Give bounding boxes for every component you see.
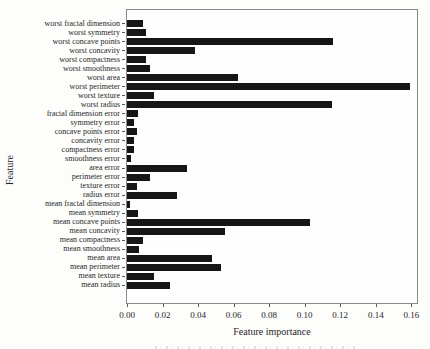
bar-worst-smoothness [127, 65, 150, 72]
y-tick-label: radius error [83, 191, 122, 199]
y-tick-mark [122, 59, 125, 60]
y-tick-mark [122, 276, 125, 277]
bars-container [127, 10, 417, 303]
y-tick-mark [122, 158, 125, 159]
y-tick-mark [122, 168, 125, 169]
y-tick-label: texture error [80, 182, 122, 190]
bar-area-error [127, 165, 187, 172]
y-tick-label: worst symmetry [68, 29, 122, 37]
y-tick-label: compactness error [62, 146, 122, 154]
bar-row [127, 82, 417, 91]
bar-row [127, 227, 417, 236]
bar-mean-compactness [127, 237, 143, 244]
y-tick-mark [122, 285, 125, 286]
y-tick-mark [122, 258, 125, 259]
y-tick-label: mean radius [81, 281, 122, 289]
y-tick-label: smoothness error [65, 155, 122, 163]
y-tick-row: worst symmetry [0, 28, 125, 37]
y-tick-label: worst concavity [69, 47, 122, 55]
x-tick-mark [198, 304, 199, 307]
bar-row [127, 236, 417, 245]
bar-worst-area [127, 74, 238, 81]
x-tick-mark [163, 304, 164, 307]
y-tick-mark [122, 231, 125, 232]
y-tick-mark [122, 149, 125, 150]
bar-fractal-dimension-error [127, 110, 138, 117]
bar-row [127, 245, 417, 254]
x-axis-title: Feature importance [233, 326, 310, 337]
bar-row [127, 109, 417, 118]
y-tick-label: worst perimeter [70, 83, 122, 91]
y-tick-label: symmetry error [70, 119, 122, 127]
bar-row [127, 281, 417, 290]
y-tick-label: mean smoothness [63, 245, 122, 253]
bar-mean-perimeter [127, 264, 221, 271]
bar-row [127, 136, 417, 145]
y-tick-mark [122, 186, 125, 187]
x-tick-mark [305, 304, 306, 307]
y-tick-row: worst fractal dimension [0, 19, 125, 28]
y-tick-label: worst concave points [52, 38, 122, 46]
x-tick-label: 0.12 [332, 310, 348, 320]
bar-radius-error [127, 192, 177, 199]
y-tick-mark [122, 177, 125, 178]
bar-worst-radius [127, 101, 332, 108]
y-tick-row: worst smoothness [0, 64, 125, 73]
bar-worst-symmetry [127, 29, 146, 36]
bar-row [127, 191, 417, 200]
y-tick-mark [122, 86, 125, 87]
bar-concave-points-error [127, 128, 137, 135]
y-tick-row: fractal dimension error [0, 109, 125, 118]
bar-row [127, 164, 417, 173]
bar-smoothness-error [127, 155, 131, 162]
bar-compactness-error [127, 146, 134, 153]
y-tick-label: worst fractal dimension [44, 20, 122, 28]
y-tick-mark [122, 140, 125, 141]
bar-worst-concave-points [127, 38, 333, 45]
y-tick-mark [122, 50, 125, 51]
y-tick-mark [122, 131, 125, 132]
bar-row [127, 173, 417, 182]
bar-mean-concavity [127, 228, 225, 235]
y-tick-mark [122, 122, 125, 123]
bar-mean-symmetry [127, 210, 138, 217]
x-tick-mark [340, 304, 341, 307]
bar-perimeter-error [127, 174, 150, 181]
y-tick-label: concavity error [71, 137, 122, 145]
bar-row [127, 272, 417, 281]
y-tick-label: mean area [87, 254, 122, 262]
bar-mean-area [127, 255, 212, 262]
y-tick-mark [122, 213, 125, 214]
bar-row [127, 263, 417, 272]
x-tick-mark [127, 304, 128, 307]
bar-row [127, 209, 417, 218]
bar-row [127, 91, 417, 100]
y-tick-mark [122, 32, 125, 33]
bar-concavity-error [127, 137, 134, 144]
y-tick-label: mean texture [78, 272, 122, 280]
bar-worst-fractal-dimension [127, 20, 143, 27]
feature-importance-figure: Feature worst fractal dimensionworst sym… [0, 0, 430, 349]
plot-area [126, 9, 418, 304]
y-tick-label: mean symmetry [69, 209, 122, 217]
y-tick-label: mean concavity [70, 227, 122, 235]
y-tick-mark [122, 104, 125, 105]
y-tick-labels: worst fractal dimensionworst symmetrywor… [0, 10, 125, 303]
x-tick-label: 0.06 [226, 310, 242, 320]
bar-row [127, 73, 417, 82]
x-tick-mark [411, 304, 412, 307]
bar-mean-concave-points [127, 219, 310, 226]
x-tick-mark [376, 304, 377, 307]
bar-row [127, 127, 417, 136]
bar-worst-texture [127, 92, 154, 99]
y-tick-row: mean radius [0, 281, 125, 290]
y-tick-mark [122, 23, 125, 24]
y-tick-mark [122, 95, 125, 96]
y-tick-row: worst texture [0, 91, 125, 100]
bar-row [127, 37, 417, 46]
bar-mean-fractal-dimension [127, 201, 130, 208]
bar-row [127, 254, 417, 263]
y-tick-mark [122, 267, 125, 268]
y-tick-label: worst compactness [59, 56, 122, 64]
y-tick-row: worst concave points [0, 37, 125, 46]
